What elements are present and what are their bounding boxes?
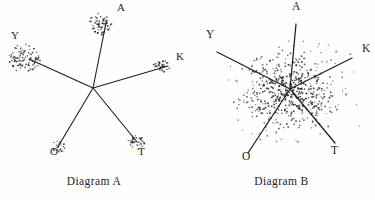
scatter-point [278, 53, 280, 55]
scatter-point [329, 107, 330, 108]
scatter-point [356, 104, 357, 105]
scatter-point [317, 78, 318, 79]
scatter-point [14, 59, 15, 60]
scatter-point [295, 76, 297, 78]
scatter-point [97, 27, 98, 28]
scatter-point [96, 21, 97, 22]
ray-a [290, 24, 296, 89]
scatter-point [295, 65, 297, 67]
scatter-point [293, 102, 294, 103]
scatter-point [10, 57, 11, 58]
scatter-point [296, 91, 297, 92]
scatter-point [259, 107, 261, 109]
scatter-point [11, 56, 12, 57]
scatter-point [326, 62, 327, 63]
scatter-point [37, 65, 38, 66]
scatter-point [269, 112, 270, 113]
scatter-point [101, 34, 103, 36]
diagram-a-group: AYKOT [9, 1, 184, 157]
ray-label-o: O [50, 145, 58, 157]
scatter-point [35, 66, 36, 67]
scatter-point [264, 100, 266, 102]
scatter-point [314, 106, 315, 107]
scatter-point [289, 92, 291, 94]
scatter-point [280, 91, 281, 92]
scatter-point [281, 113, 282, 114]
scatter-point [285, 89, 286, 90]
scatter-point [162, 61, 163, 62]
scatter-point [101, 27, 102, 28]
scatter-point [166, 69, 167, 70]
scatter-point [330, 59, 331, 60]
scatter-point [302, 73, 304, 75]
scatter-point [33, 48, 34, 49]
scatter-point [314, 78, 315, 79]
scatter-point [143, 141, 144, 142]
scatter-point [259, 84, 261, 86]
scatter-point [89, 21, 90, 22]
scatter-point [161, 64, 163, 66]
scatter-point [98, 24, 99, 25]
scatter-point [237, 108, 238, 109]
scatter-point [262, 71, 263, 72]
scatter-point [109, 29, 110, 30]
scatter-point [95, 20, 96, 21]
scatter-point [261, 56, 263, 58]
scatter-point [308, 90, 309, 91]
scatter-point [300, 96, 301, 97]
scatter-point [253, 92, 255, 94]
scatter-point [308, 75, 309, 76]
scatter-point [317, 89, 318, 90]
scatter-point [57, 141, 58, 142]
scatter-point [285, 98, 286, 99]
scatter-point [252, 88, 253, 89]
scatter-point [299, 88, 300, 89]
scatter-point [298, 78, 299, 79]
scatter-point [301, 67, 303, 69]
scatter-point [244, 102, 245, 103]
scatter-point [158, 65, 160, 67]
ray-label-a: A [292, 0, 301, 12]
scatter-point [284, 109, 286, 111]
scatter-point [285, 90, 287, 92]
scatter-point [329, 97, 331, 99]
scatter-point [23, 54, 25, 56]
scatter-point [274, 83, 276, 85]
scatter-point [132, 135, 133, 136]
scatter-point [276, 65, 277, 66]
scatter-point [327, 61, 328, 62]
scatter-point [28, 64, 29, 65]
scatter-point [251, 65, 253, 67]
scatter-point [36, 52, 37, 53]
scatter-point [297, 141, 299, 143]
scatter-point [310, 86, 311, 87]
scatter-point [260, 77, 262, 79]
scatter-point [272, 95, 273, 96]
scatter-point [275, 70, 276, 71]
scatter-point [298, 80, 299, 81]
scatter-point [301, 109, 303, 111]
scatter-point [29, 53, 30, 54]
scatter-point [296, 60, 297, 61]
scatter-point [38, 55, 39, 56]
scatter-point [22, 66, 23, 67]
scatter-point [58, 151, 60, 153]
scatter-point [298, 127, 299, 128]
scatter-point [305, 98, 307, 100]
scatter-point [255, 104, 256, 105]
scatter-point [316, 70, 317, 71]
scatter-point [155, 63, 156, 64]
scatter-point [266, 71, 267, 72]
scatter-point [38, 57, 40, 59]
scatter-point [28, 45, 30, 47]
scatter-point [22, 50, 23, 51]
scatter-point [306, 70, 307, 71]
scatter-point [246, 102, 248, 104]
scatter-point [294, 124, 295, 125]
scatter-point [320, 52, 321, 53]
scatter-point [257, 99, 259, 101]
scatter-point [269, 92, 271, 94]
scatter-point [293, 110, 295, 112]
scatter-point [288, 115, 289, 116]
scatter-point [159, 69, 160, 70]
